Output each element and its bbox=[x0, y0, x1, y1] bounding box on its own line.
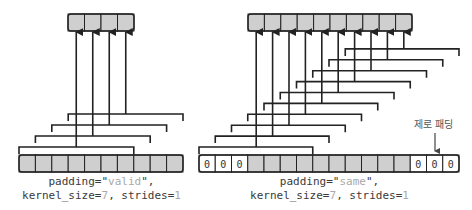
kernel-bracket bbox=[345, 49, 459, 56]
input-cell bbox=[101, 155, 117, 172]
output-cell bbox=[330, 14, 346, 31]
input-cell bbox=[19, 155, 35, 172]
output-cell bbox=[101, 14, 118, 31]
zero-padding-label: 제로 패딩 bbox=[414, 116, 453, 131]
output-cell bbox=[85, 14, 102, 31]
kernel-bracket bbox=[297, 82, 411, 89]
output-cell bbox=[396, 14, 412, 31]
output-cell bbox=[346, 14, 362, 31]
input-cell bbox=[35, 155, 51, 172]
same-output-row bbox=[248, 14, 412, 31]
input-cell bbox=[167, 155, 183, 172]
input-cell bbox=[52, 155, 68, 172]
input-cell bbox=[134, 155, 150, 172]
input-cell bbox=[117, 155, 133, 172]
valid-caption: padding="valid", kernel_size=7, strides=… bbox=[19, 175, 184, 203]
kernel-bracket bbox=[35, 136, 150, 143]
input-cell bbox=[378, 155, 394, 172]
kernel-bracket bbox=[329, 60, 443, 67]
zero-label: 0 bbox=[448, 159, 454, 170]
output-cell bbox=[281, 14, 297, 31]
zero-label: 0 bbox=[415, 159, 421, 170]
input-cell bbox=[150, 155, 166, 172]
output-cell bbox=[248, 14, 264, 31]
output-cell bbox=[363, 14, 379, 31]
same-padding-diagram: 000000 bbox=[199, 14, 459, 172]
input-cell bbox=[394, 155, 410, 172]
valid-caption-line2: kernel_size=7, strides=1 bbox=[19, 189, 184, 203]
kernel-bracket bbox=[68, 114, 183, 121]
output-cell bbox=[379, 14, 395, 31]
output-cell bbox=[297, 14, 313, 31]
zero-label: 0 bbox=[220, 159, 226, 170]
output-cell bbox=[68, 14, 85, 31]
same-kernel-brackets bbox=[199, 32, 459, 154]
kernel-bracket bbox=[232, 125, 346, 132]
input-cell bbox=[248, 155, 264, 172]
valid-input-row bbox=[19, 155, 183, 172]
zero-label: 0 bbox=[237, 159, 243, 170]
output-cell bbox=[118, 14, 135, 31]
kernel-bracket bbox=[313, 71, 427, 78]
valid-output-row bbox=[68, 14, 134, 31]
input-cell bbox=[329, 155, 345, 172]
input-cell bbox=[313, 155, 329, 172]
valid-caption-line1: padding="valid", bbox=[19, 175, 184, 189]
zero-label: 0 bbox=[432, 159, 438, 170]
kernel-bracket bbox=[248, 114, 362, 121]
kernel-bracket bbox=[215, 136, 329, 143]
same-caption-line1: padding="same", bbox=[247, 175, 412, 189]
kernel-bracket bbox=[19, 147, 134, 154]
kernel-bracket bbox=[264, 103, 378, 110]
input-cell bbox=[280, 155, 296, 172]
same-input-row: 000000 bbox=[199, 155, 459, 172]
zero-label: 0 bbox=[204, 159, 210, 170]
same-caption-line2: kernel_size=7, strides=1 bbox=[247, 189, 412, 203]
kernel-bracket bbox=[52, 125, 167, 132]
valid-kernel-brackets bbox=[19, 32, 183, 154]
output-cell bbox=[264, 14, 280, 31]
kernel-bracket bbox=[280, 93, 394, 100]
output-cell bbox=[314, 14, 330, 31]
input-cell bbox=[68, 155, 84, 172]
input-cell bbox=[85, 155, 101, 172]
valid-padding-diagram bbox=[19, 14, 183, 172]
same-caption: padding="same", kernel_size=7, strides=1 bbox=[247, 175, 412, 203]
kernel-bracket bbox=[199, 147, 313, 154]
input-cell bbox=[345, 155, 361, 172]
input-cell bbox=[362, 155, 378, 172]
input-cell bbox=[264, 155, 280, 172]
input-cell bbox=[297, 155, 313, 172]
